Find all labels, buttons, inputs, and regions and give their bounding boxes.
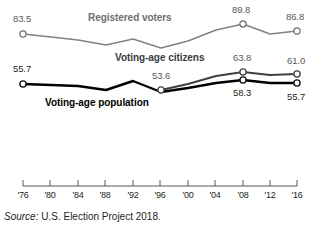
data-point-marker <box>158 87 164 93</box>
data-point-marker <box>20 81 26 87</box>
x-tick-label-04: '04 <box>202 190 228 200</box>
voter-turnout-chart: 83.5 89.8 86.8 53.6 63.8 61.0 55.7 58.3 … <box>0 0 315 232</box>
x-tick-label-96: '96 <box>147 190 173 200</box>
data-point-marker <box>240 77 246 83</box>
data-point-marker <box>240 21 246 27</box>
value-label-population-2008: 58.3 <box>233 87 251 98</box>
series-label-registered-voters: Registered voters <box>88 12 172 23</box>
series-label-voting-age-citizens: Voting-age citizens <box>115 52 204 63</box>
source-text: U.S. Election Project 2018. <box>41 211 161 222</box>
value-label-citizens-1996: 53.6 <box>152 70 170 81</box>
x-tick-label-12: '12 <box>257 190 283 200</box>
value-label-registered-2016: 86.8 <box>286 11 304 22</box>
x-tick-label-76: '76 <box>10 190 36 200</box>
source-note: Source: U.S. Election Project 2018. <box>4 211 161 222</box>
value-label-population-2016: 55.7 <box>287 91 305 102</box>
data-point-marker <box>294 80 300 86</box>
x-tick-label-16: '16 <box>284 190 310 200</box>
value-label-registered-2008: 89.8 <box>232 4 250 15</box>
series-line-registered-voters <box>23 24 297 48</box>
data-point-marker <box>240 69 246 75</box>
data-point-marker <box>294 28 300 34</box>
value-label-registered-1976: 83.5 <box>13 13 31 24</box>
value-label-population-1976: 55.7 <box>13 63 31 74</box>
source-prefix: Source: <box>4 211 38 222</box>
series-label-voting-age-population: Voting-age population <box>45 97 149 108</box>
data-point-marker <box>20 31 26 37</box>
x-axis <box>23 180 297 186</box>
x-tick-label-92: '92 <box>120 190 146 200</box>
value-label-citizens-2016: 61.0 <box>287 55 305 66</box>
x-tick-label-00: '00 <box>175 190 201 200</box>
x-tick-label-08: '08 <box>230 190 256 200</box>
x-tick-label-80: '80 <box>37 190 63 200</box>
x-tick-label-88: '88 <box>92 190 118 200</box>
value-label-citizens-2008: 63.8 <box>233 52 251 63</box>
data-point-marker <box>294 71 300 77</box>
x-tick-label-84: '84 <box>65 190 91 200</box>
